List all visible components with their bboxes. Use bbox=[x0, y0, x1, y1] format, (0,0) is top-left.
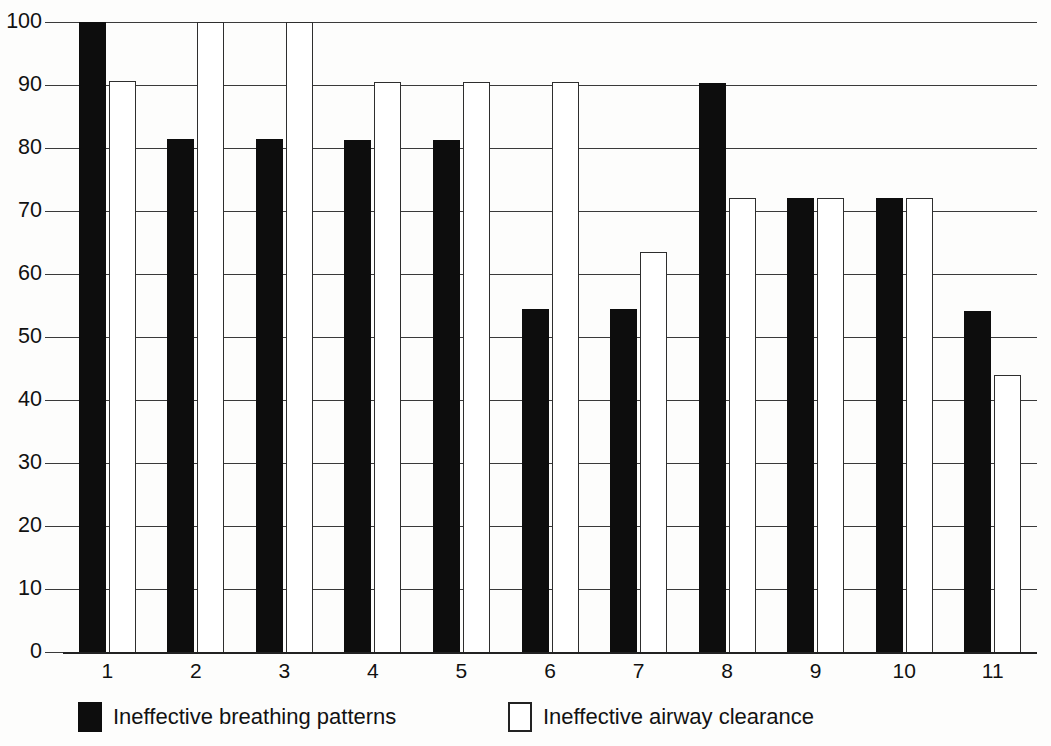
bar-chart: 0102030405060708090100 1234567891011 Ine… bbox=[0, 0, 1051, 746]
bar-airway-3 bbox=[286, 22, 313, 652]
x-tick-label-6: 6 bbox=[520, 660, 580, 681]
bar-airway-2 bbox=[197, 22, 224, 652]
bar-group-4 bbox=[344, 22, 401, 652]
bar-group-5 bbox=[433, 22, 490, 652]
y-tick-mark-20 bbox=[45, 526, 63, 527]
legend-label-ineffective-airway-clearance: Ineffective airway clearance bbox=[543, 706, 814, 728]
bar-airway-11 bbox=[994, 375, 1021, 652]
y-tick-label-100: 100 bbox=[0, 11, 42, 33]
y-tick-mark-0 bbox=[45, 652, 63, 653]
x-tick-label-7: 7 bbox=[609, 660, 669, 681]
legend-label-ineffective-breathing-patterns: Ineffective breathing patterns bbox=[113, 706, 396, 728]
y-tick-label-70: 70 bbox=[0, 200, 42, 222]
y-tick-mark-10 bbox=[45, 589, 63, 590]
bar-breathing-4 bbox=[344, 140, 371, 652]
y-tick-mark-50 bbox=[45, 337, 63, 338]
x-tick-label-8: 8 bbox=[697, 660, 757, 681]
bar-group-11 bbox=[964, 22, 1021, 652]
bar-airway-6 bbox=[552, 82, 579, 652]
bar-group-3 bbox=[256, 22, 313, 652]
x-tick-label-10: 10 bbox=[874, 660, 934, 681]
legend-item-ineffective-airway-clearance: Ineffective airway clearance bbox=[508, 700, 814, 734]
legend-swatch-white-icon bbox=[508, 702, 532, 732]
y-tick-mark-60 bbox=[45, 274, 63, 275]
chart-legend: Ineffective breathing patterns Ineffecti… bbox=[0, 700, 1051, 746]
bar-group-7 bbox=[610, 22, 667, 652]
y-tick-label-40: 40 bbox=[0, 389, 42, 411]
x-tick-label-11: 11 bbox=[963, 660, 1023, 681]
x-tick-label-9: 9 bbox=[786, 660, 846, 681]
x-tick-label-4: 4 bbox=[343, 660, 403, 681]
plot-area: 0102030405060708090100 bbox=[63, 22, 1037, 652]
x-tick-label-1: 1 bbox=[77, 660, 137, 681]
bar-airway-4 bbox=[374, 82, 401, 652]
y-tick-mark-30 bbox=[45, 463, 63, 464]
bar-breathing-3 bbox=[256, 139, 283, 652]
bar-group-10 bbox=[876, 22, 933, 652]
x-tick-label-2: 2 bbox=[166, 660, 226, 681]
legend-swatch-black-icon bbox=[78, 702, 102, 732]
y-tick-mark-80 bbox=[45, 148, 63, 149]
bar-breathing-7 bbox=[610, 309, 637, 652]
y-tick-label-0: 0 bbox=[0, 641, 42, 663]
bar-breathing-10 bbox=[876, 198, 903, 652]
y-tick-label-20: 20 bbox=[0, 515, 42, 537]
x-tick-label-3: 3 bbox=[254, 660, 314, 681]
y-tick-mark-70 bbox=[45, 211, 63, 212]
y-tick-mark-100 bbox=[45, 22, 63, 23]
bar-airway-9 bbox=[817, 198, 844, 652]
y-tick-mark-40 bbox=[45, 400, 63, 401]
gridline-0 bbox=[63, 652, 1037, 654]
bar-breathing-2 bbox=[167, 139, 194, 652]
y-tick-label-60: 60 bbox=[0, 263, 42, 285]
y-tick-label-90: 90 bbox=[0, 74, 42, 96]
bar-airway-1 bbox=[109, 81, 136, 652]
y-tick-mark-90 bbox=[45, 85, 63, 86]
bar-breathing-8 bbox=[699, 83, 726, 652]
y-tick-label-10: 10 bbox=[0, 578, 42, 600]
x-tick-label-5: 5 bbox=[431, 660, 491, 681]
y-tick-label-80: 80 bbox=[0, 137, 42, 159]
y-tick-label-50: 50 bbox=[0, 326, 42, 348]
bar-group-9 bbox=[787, 22, 844, 652]
y-tick-label-30: 30 bbox=[0, 452, 42, 474]
bar-airway-8 bbox=[729, 198, 756, 652]
bar-breathing-5 bbox=[433, 140, 460, 652]
bar-airway-5 bbox=[463, 82, 490, 652]
bar-group-1 bbox=[79, 22, 136, 652]
bar-airway-10 bbox=[906, 198, 933, 652]
bar-group-8 bbox=[699, 22, 756, 652]
bar-breathing-9 bbox=[787, 198, 814, 652]
bar-breathing-6 bbox=[522, 309, 549, 652]
legend-item-ineffective-breathing-patterns: Ineffective breathing patterns bbox=[78, 700, 396, 734]
bar-airway-7 bbox=[640, 252, 667, 652]
bar-group-2 bbox=[167, 22, 224, 652]
bar-breathing-1 bbox=[79, 22, 106, 652]
bar-breathing-11 bbox=[964, 311, 991, 652]
bar-group-6 bbox=[522, 22, 579, 652]
